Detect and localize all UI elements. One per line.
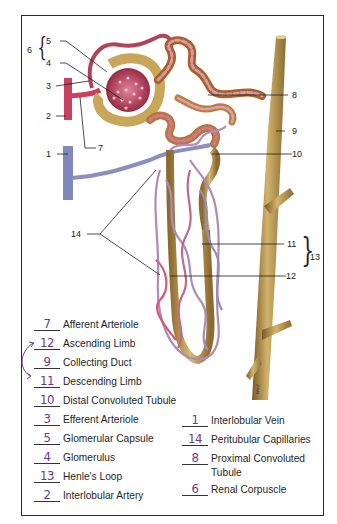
term-label: Interlobular Artery [63,491,143,502]
handwritten-answer: 2 [35,487,58,502]
term-label-continued: Tubule [211,467,242,478]
term-label: Interlobular Vein [211,416,285,427]
answer-blank[interactable]: 6 [182,480,208,496]
term-label: Efferent Arteriole [63,415,139,426]
key-row: 6 Renal Corpuscle [182,481,286,496]
handwritten-answer: 13 [35,468,58,483]
key-row: 5 Glomerular Capsule [34,430,154,445]
key-row: 8 Proximal Convoluted [182,450,305,465]
handwritten-answer: 1 [183,412,206,427]
key-row: 4 Glomerulus [34,449,115,464]
handwritten-answer: 3 [35,411,58,426]
key-row: 2 Interlobular Artery [34,487,143,502]
key-row: 3 Efferent Arteriole [34,411,139,426]
answer-blank[interactable]: 10 [34,391,60,407]
handwritten-answer: 9 [35,354,58,369]
handwritten-answer: 7 [35,316,58,331]
key-row: 9 Collecting Duct [34,354,132,369]
answer-blank[interactable]: 11 [34,372,60,388]
handwritten-answer: 8 [183,450,206,465]
key-row: 12 Ascending Limb [34,335,136,350]
answer-blank[interactable]: 8 [182,449,208,465]
answer-blank[interactable]: 3 [34,410,60,426]
term-label: Proximal Convoluted [211,454,305,465]
handwritten-answer: 12 [35,335,58,350]
handwritten-answer: 4 [35,449,58,464]
term-label: Henle's Loop [63,472,122,483]
answer-blank[interactable]: 1 [182,411,208,427]
term-label: Collecting Duct [63,358,132,369]
term-label: Glomerular Capsule [63,434,154,445]
handwritten-answer: 5 [35,430,58,445]
answer-blank[interactable]: 7 [34,315,60,331]
key-row: 14 Peritubular Capillaries [182,431,311,446]
term-label: Renal Corpuscle [211,485,286,496]
key-row: 11 Descending Limb [34,373,142,388]
key-row: 1 Interlobular Vein [182,412,285,427]
term-label: Descending Limb [63,377,142,388]
term-label: Peritubular Capillaries [211,435,311,446]
answer-blank[interactable]: 12 [34,334,60,350]
handwritten-answer: 6 [183,481,206,496]
handwritten-answer: 14 [183,431,206,446]
term-label: Glomerulus [63,453,115,464]
answer-blank[interactable]: 4 [34,448,60,464]
answer-blank[interactable]: 13 [34,467,60,483]
term-label: Ascending Limb [63,339,136,350]
term-label: Distal Convoluted Tubule [63,396,176,407]
answer-blank[interactable]: 5 [34,429,60,445]
key-row: 13 Henle's Loop [34,468,122,483]
answer-blank[interactable]: 9 [34,353,60,369]
handwritten-answer: 11 [35,373,58,388]
key-row: 7 Afferent Arteriole [34,316,139,331]
answer-blank[interactable]: 2 [34,486,60,502]
answer-blank[interactable]: 14 [182,430,208,446]
term-label: Afferent Arteriole [63,320,139,331]
key-row: 10 Distal Convoluted Tubule [34,392,176,407]
handwritten-answer: 10 [35,392,58,407]
